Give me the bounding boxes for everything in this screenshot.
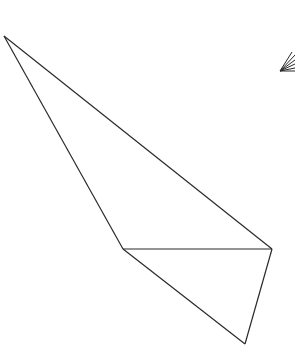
- edge-BD: [123, 249, 245, 344]
- fan-shape-icon: [280, 52, 295, 71]
- quadrilateral-edges: [4, 36, 272, 344]
- edge-AC: [4, 36, 272, 249]
- edge-AB: [4, 36, 123, 249]
- diagram-canvas: [0, 0, 295, 347]
- edge-CD: [245, 249, 272, 344]
